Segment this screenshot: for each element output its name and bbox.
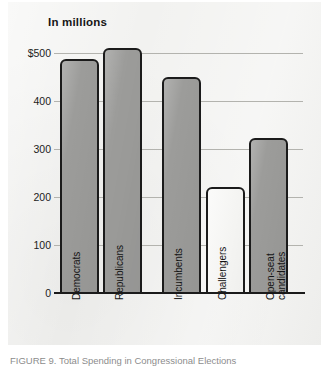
figure-container: In millions 0100200300400$500 DemocratsR… [0, 0, 329, 371]
y-axis-label-0: 0 [0, 287, 51, 299]
x-axis-label-incumbents: Incumbents [173, 248, 184, 300]
y-axis-label-200: 200 [0, 191, 51, 203]
y-axis-label-300: 300 [0, 143, 51, 155]
y-axis-label-100: 100 [0, 239, 51, 251]
x-axis-label-democrats: Democrats [71, 252, 82, 300]
y-axis-label-400: 400 [0, 95, 51, 107]
x-axis-label-republicans: Republicans [114, 245, 125, 300]
x-axis-label-challengers: Challengers [217, 247, 228, 300]
y-axis-label-500: $500 [0, 47, 51, 59]
plot-area: 0100200300400$500 DemocratsRepublicansIn… [0, 0, 313, 343]
gridline-500 [54, 53, 303, 54]
x-axis-label-open-seat-candidates: Open-seat candidates [265, 252, 287, 300]
figure-caption: FIGURE 9. Total Spending in Congressiona… [10, 355, 322, 367]
